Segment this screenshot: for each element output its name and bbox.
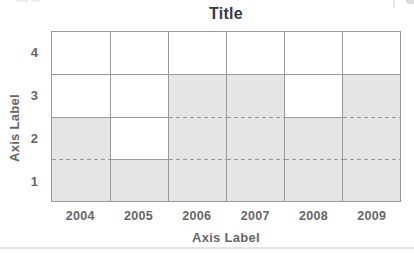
bottom-divider-rule	[0, 247, 414, 249]
chart-title: Title	[51, 5, 401, 23]
grid-cell-2005-band3	[110, 74, 168, 116]
crop-artifact	[406, 0, 414, 4]
grid-cell-2004-band4	[52, 32, 110, 74]
grid-cell-2006-band4	[168, 32, 226, 74]
grid-cell-2007-band1	[226, 159, 284, 201]
y-axis-label: Axis Label	[7, 94, 22, 162]
grid-cell-2008-band2	[284, 117, 342, 159]
x-axis-ticks: 200420052006200720082009	[51, 209, 401, 224]
x-tick-label-2009: 2009	[357, 209, 386, 223]
grid-cell-2005-band1	[110, 159, 168, 201]
grid-cell-2008-band4	[284, 32, 342, 74]
grid-cell-2005-band2	[110, 117, 168, 159]
grid-cell-2005-band4	[110, 32, 168, 74]
grid-cell-2006-band2	[168, 117, 226, 159]
grid-cell-2009-band1	[342, 159, 400, 201]
grid-cell-2007-band2	[226, 117, 284, 159]
grid-cell-2004-band2	[52, 117, 110, 159]
grid-cell-2009-band3	[342, 74, 400, 116]
y-tick-label-4: 4	[0, 45, 45, 60]
grid-cell-2004-band1	[52, 159, 110, 201]
x-tick-label-2007: 2007	[241, 209, 270, 223]
chart-screenshot: Title 4321 200420052006200720082009 Axis…	[0, 0, 414, 253]
x-tick-label-2005: 2005	[124, 209, 153, 223]
grid-cell-2006-band3	[168, 74, 226, 116]
grid-cell-2007-band4	[226, 32, 284, 74]
grid-cell-2007-band3	[226, 74, 284, 116]
grid-cell-2004-band3	[52, 74, 110, 116]
plot-area	[51, 31, 401, 202]
x-tick-label-2008: 2008	[299, 209, 328, 223]
x-axis-label: Axis Label	[192, 230, 260, 245]
grid-cell-2009-band4	[342, 32, 400, 74]
x-tick-label-2004: 2004	[66, 209, 95, 223]
grid-cell-2006-band1	[168, 159, 226, 201]
grid-cell-2008-band3	[284, 74, 342, 116]
crop-artifact	[17, 0, 28, 2]
y-tick-label-1: 1	[0, 173, 45, 188]
crop-artifact	[31, 0, 39, 2]
grid-cell-2009-band2	[342, 117, 400, 159]
x-tick-label-2006: 2006	[182, 209, 211, 223]
grid-cell-2008-band1	[284, 159, 342, 201]
